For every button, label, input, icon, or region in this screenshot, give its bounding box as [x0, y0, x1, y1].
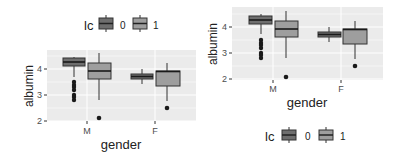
right-x-axis: M F gender	[269, 80, 344, 110]
left-legend-title: lc	[84, 18, 94, 33]
left-x-axis-label: gender	[101, 137, 142, 152]
left-xtick-m: M	[83, 126, 91, 136]
right-ytick-4: 4	[222, 22, 227, 32]
left-y-axis: 4 3 2 albumin	[22, 64, 47, 126]
right-y-axis: 4 3 2 albumin	[206, 22, 232, 84]
left-x-axis: M F gender	[83, 121, 158, 152]
right-legend-label-1: 1	[340, 131, 346, 142]
legend-key-0-icon	[99, 15, 113, 32]
left-chart: lc 0 1	[22, 15, 196, 152]
legend-key-1-icon	[133, 15, 147, 32]
right-y-axis-label: albumin	[206, 23, 220, 65]
right-xtick-m: M	[269, 84, 277, 94]
left-legend-label-1: 1	[153, 20, 159, 31]
legend-key-0-icon	[282, 127, 296, 143]
left-ytick-2: 2	[37, 116, 42, 126]
left-y-axis-label: albumin	[22, 65, 36, 107]
right-x-axis-label: gender	[287, 95, 328, 110]
right-chart: 4 3 2 albumin M F gender lc 0	[206, 7, 383, 144]
chart-figure: lc 0 1	[0, 0, 403, 160]
right-ytick-2: 2	[222, 74, 227, 84]
legend-key-1-icon	[319, 127, 333, 143]
right-legend: lc 0 1	[265, 127, 346, 144]
right-legend-label-0: 0	[305, 131, 311, 142]
right-legend-title: lc	[265, 129, 275, 144]
left-legend: lc 0 1	[84, 15, 159, 33]
right-xtick-f: F	[338, 84, 344, 94]
left-ytick-4: 4	[37, 64, 42, 74]
left-ytick-3: 3	[37, 90, 42, 100]
left-xtick-f: F	[152, 126, 158, 136]
right-ytick-3: 3	[222, 48, 227, 58]
left-legend-label-0: 0	[120, 20, 126, 31]
